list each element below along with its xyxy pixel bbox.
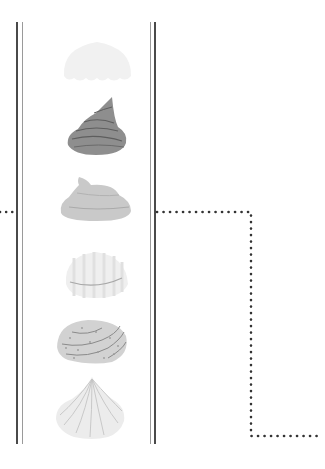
soft-swirl-frosting (57, 175, 137, 223)
dotted-connector-path (0, 0, 325, 469)
swirl-peak-frosting (60, 95, 135, 157)
petal-fan-frosting (52, 375, 130, 441)
cloud-frosting (60, 38, 135, 83)
rosette-frosting (52, 318, 130, 366)
striped-dome-frosting (62, 250, 132, 300)
